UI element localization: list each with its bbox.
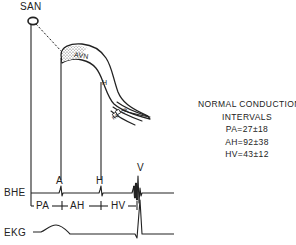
normal-conduction-intervals-legend: NORMAL CONDUCTION INTERVALS PA=27±18 AH=… (198, 98, 296, 161)
legend-value-hv: HV=43±12 (198, 148, 296, 161)
legend-value-ah: AH=92±38 (198, 136, 296, 149)
legend-value-pa: PA=27±18 (198, 123, 296, 136)
h-deflection-label: H (96, 176, 104, 186)
pa-interval-label: PA (36, 201, 49, 211)
ekg-trace-label: EKG (4, 228, 26, 238)
sa-node-shape (28, 17, 38, 24)
v-deflection-label: V (137, 163, 144, 173)
ah-interval-label: AH (70, 201, 85, 211)
his-bundle-electrogram-diagram: SAN AVN H RB LB A H V BHE EKG PA AH HV N… (0, 0, 296, 245)
legend-title-line2: INTERVALS (198, 111, 296, 124)
bhe-trace-label: BHE (4, 188, 25, 198)
a-deflection-label: A (56, 176, 63, 186)
legend-title-line1: NORMAL CONDUCTION (198, 98, 296, 111)
his-label: H (102, 79, 107, 86)
hv-interval-label: HV (111, 201, 126, 211)
san-to-avn-dashed-line (36, 24, 62, 52)
san-label: SAN (20, 2, 41, 12)
